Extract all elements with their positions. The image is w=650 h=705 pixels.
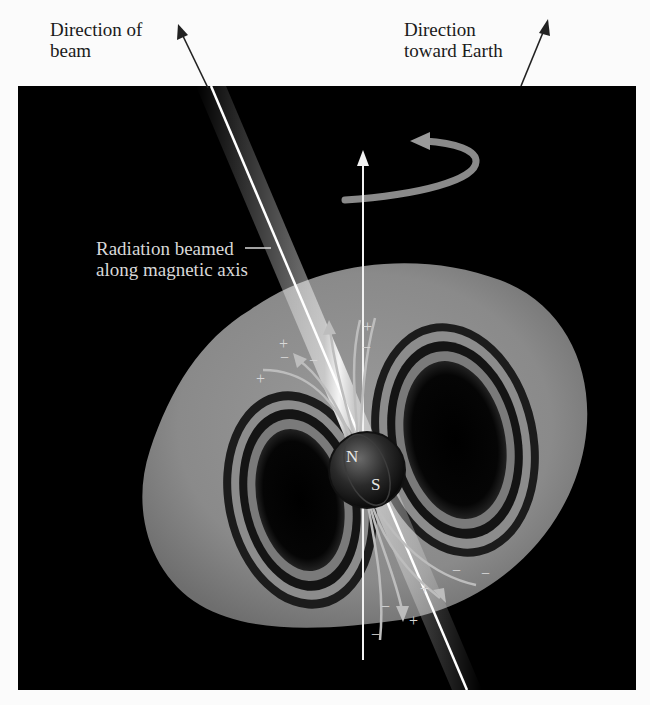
charge-plus: +	[420, 578, 429, 599]
beam-direction-label: Direction of beam	[50, 19, 142, 61]
diagram-artwork	[0, 0, 650, 705]
charge-minus: −	[280, 347, 289, 368]
charge-minus: −	[481, 563, 490, 584]
north-pole-label: N	[346, 446, 358, 467]
charge-plus: +	[256, 368, 265, 389]
charge-plus: +	[363, 316, 372, 337]
earth-direction-label: Direction toward Earth	[404, 19, 503, 61]
charge-minus: −	[309, 350, 318, 371]
charge-minus: −	[452, 560, 461, 581]
charge-minus: −	[371, 624, 380, 645]
charge-plus: +	[409, 610, 418, 631]
charge-minus: −	[362, 337, 371, 358]
earth-direction-arrow	[521, 19, 550, 86]
pulsar-diagram: Direction of beam Direction toward Earth…	[0, 0, 650, 705]
charge-minus: −	[381, 596, 390, 617]
south-pole-label: S	[371, 474, 380, 495]
radiation-label: Radiation beamed along magnetic axis	[96, 238, 248, 280]
beam-direction-arrow	[177, 24, 208, 88]
